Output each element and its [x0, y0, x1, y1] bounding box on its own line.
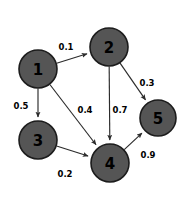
node-label-3: 3 — [33, 132, 43, 150]
node-label-2: 2 — [104, 39, 114, 57]
edge-weight-label-2-4: 0.7 — [112, 105, 127, 115]
edge-weight-label-1-2: 0.1 — [58, 42, 73, 52]
node-label-5: 5 — [153, 110, 163, 128]
edge-weight-label-1-4: 0.4 — [77, 105, 92, 115]
graph-figure: 0.10.50.40.70.30.20.9 12345 — [0, 0, 186, 198]
graph-node-4[interactable]: 4 — [91, 144, 129, 182]
graph-edge-2-to-4 — [109, 67, 110, 141]
graph-node-1[interactable]: 1 — [19, 50, 57, 88]
edge-weight-label-4-5: 0.9 — [140, 150, 155, 160]
graph-node-2[interactable]: 2 — [90, 28, 128, 66]
graph-node-3[interactable]: 3 — [19, 121, 57, 159]
edge-weight-label-1-3: 0.5 — [13, 101, 28, 111]
graph-edge-3-to-4 — [57, 146, 89, 156]
graph-edge-1-to-2 — [57, 54, 87, 63]
graph-node-5[interactable]: 5 — [140, 100, 176, 136]
edge-weight-label-3-4: 0.2 — [57, 169, 72, 179]
graph-edge-4-to-5 — [124, 133, 142, 150]
node-label-1: 1 — [33, 61, 43, 79]
node-label-4: 4 — [105, 155, 115, 173]
graph-canvas: 0.10.50.40.70.30.20.9 12345 — [0, 0, 186, 198]
edge-weight-label-2-5: 0.3 — [139, 78, 154, 88]
